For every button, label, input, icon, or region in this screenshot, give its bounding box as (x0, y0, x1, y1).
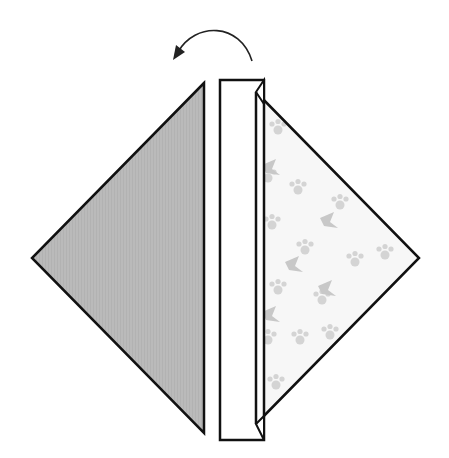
origami-diagram (0, 0, 449, 458)
left-gray-triangle (32, 83, 204, 433)
right-patterned-triangle (256, 92, 419, 424)
center-folded-strip (220, 80, 264, 440)
curved-arrow-left-icon (173, 31, 252, 61)
